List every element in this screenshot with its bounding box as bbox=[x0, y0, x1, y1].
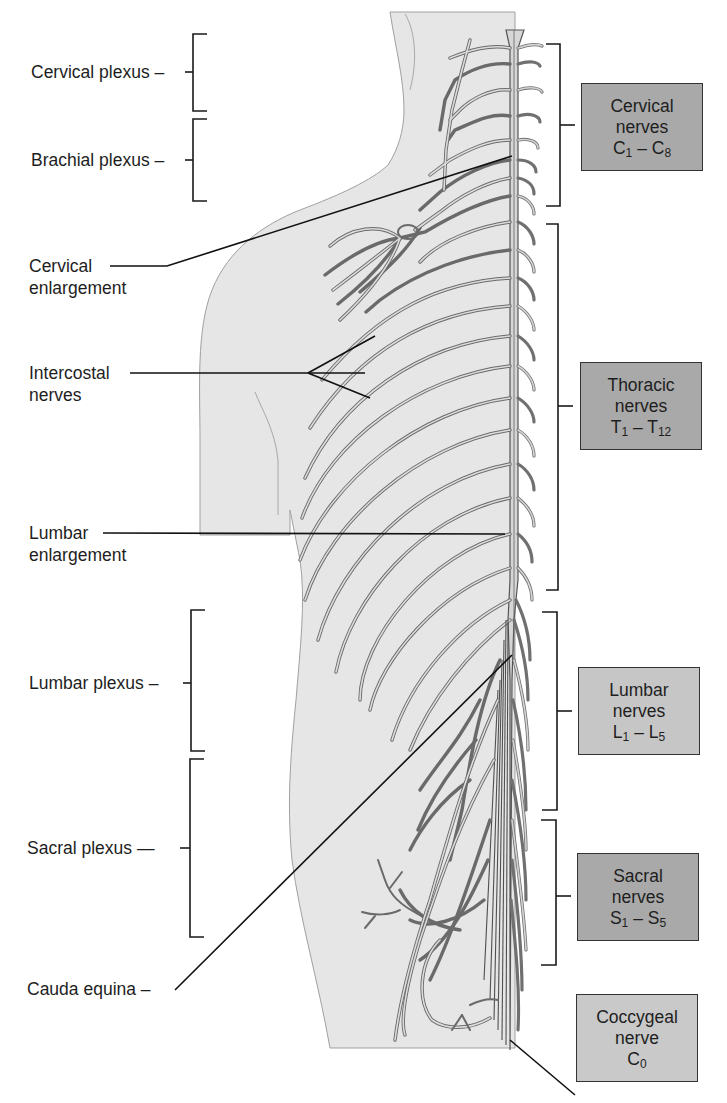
box-subtitle: nerves bbox=[616, 117, 669, 138]
label-dash: – bbox=[155, 62, 165, 82]
box-range: C0 bbox=[627, 1049, 646, 1070]
box-title: Sacral bbox=[613, 866, 663, 887]
label-intercostal-nerves: Intercostal nerves bbox=[29, 362, 110, 406]
label-line: Cervical bbox=[29, 255, 126, 277]
box-coccygeal-nerve: Coccygeal nerve C0 bbox=[576, 994, 698, 1082]
label-dash: – bbox=[149, 673, 159, 693]
box-range: L1 – L5 bbox=[613, 722, 665, 743]
box-sacral-nerves: Sacral nerves S1 – S5 bbox=[577, 853, 699, 941]
label-line: Lumbar bbox=[29, 522, 126, 544]
label-text: Lumbar plexus bbox=[29, 673, 144, 693]
label-text: Sacral plexus bbox=[27, 838, 132, 858]
label-sacral-plexus: Sacral plexus — bbox=[27, 837, 154, 859]
box-title: Thoracic bbox=[607, 375, 674, 396]
spinal-nerves-diagram: Cervical plexus – Brachial plexus – Cerv… bbox=[0, 0, 727, 1103]
body-silhouette bbox=[200, 12, 515, 1048]
label-cervical-plexus: Cervical plexus – bbox=[31, 61, 164, 83]
box-title: Cervical bbox=[610, 96, 673, 117]
label-lumbar-enlargement: Lumbar enlargement bbox=[29, 522, 126, 566]
box-subtitle: nerves bbox=[612, 887, 665, 908]
label-dash: – bbox=[141, 979, 151, 999]
box-range: S1 – S5 bbox=[610, 908, 666, 929]
box-subtitle: nerves bbox=[613, 701, 666, 722]
box-thoracic-nerves: Thoracic nerves T1 – T12 bbox=[580, 362, 702, 450]
label-line: nerves bbox=[29, 384, 110, 406]
label-line: enlargement bbox=[29, 544, 126, 566]
label-line: Intercostal bbox=[29, 362, 110, 384]
box-cervical-nerves: Cervical nerves C1 – C8 bbox=[581, 83, 703, 171]
label-cervical-enlargement: Cervical enlargement bbox=[29, 255, 126, 299]
box-lumbar-nerves: Lumbar nerves L1 – L5 bbox=[578, 667, 700, 755]
box-title: Coccygeal bbox=[596, 1007, 678, 1028]
label-brachial-plexus: Brachial plexus – bbox=[31, 149, 164, 171]
label-text: Cauda equina bbox=[27, 979, 136, 999]
label-lumbar-plexus: Lumbar plexus – bbox=[29, 672, 158, 694]
box-title: Lumbar bbox=[609, 680, 668, 701]
box-range: T1 – T12 bbox=[611, 417, 672, 438]
label-dash: – bbox=[155, 150, 165, 170]
box-range: C1 – C8 bbox=[613, 138, 671, 159]
label-cauda-equina: Cauda equina – bbox=[27, 978, 151, 1000]
label-text: Brachial plexus bbox=[31, 150, 150, 170]
right-brackets bbox=[541, 44, 575, 965]
box-subtitle: nerves bbox=[615, 396, 668, 417]
box-subtitle: nerve bbox=[615, 1028, 659, 1049]
label-text: Cervical plexus bbox=[31, 62, 150, 82]
label-dash: — bbox=[137, 838, 155, 858]
label-line: enlargement bbox=[29, 277, 126, 299]
